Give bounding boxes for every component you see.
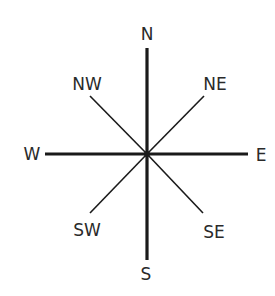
ne-line: [147, 96, 204, 154]
se-line: [147, 154, 203, 213]
compass-rose-diagram: N NW NE W E SW SE S: [0, 0, 275, 296]
sw-line: [90, 154, 147, 213]
center-point: [144, 151, 150, 157]
label-w: W: [24, 144, 41, 164]
label-se: SE: [203, 222, 225, 242]
label-sw: SW: [73, 220, 101, 240]
nw-line: [90, 96, 147, 154]
label-n: N: [141, 24, 154, 44]
label-nw: NW: [72, 74, 102, 94]
label-e: E: [256, 145, 267, 165]
label-s: S: [141, 264, 152, 284]
label-ne: NE: [203, 74, 226, 94]
